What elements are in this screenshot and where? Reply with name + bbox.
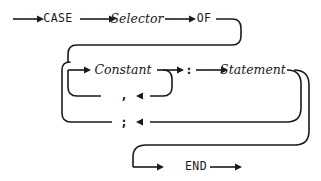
rail-of-to-right-turn <box>68 19 241 62</box>
rail-left-bus-join <box>62 62 70 70</box>
arrowhead-statement-arrow <box>221 66 228 73</box>
rail-comma-loop-down <box>150 70 172 96</box>
arrowhead-selector-arrow <box>189 15 196 22</box>
arrowhead-case-arrow <box>109 15 116 22</box>
arrowhead-exit-arrow <box>235 163 242 170</box>
rail-left-bus-down <box>68 70 101 96</box>
arrowhead-entry-arrow <box>37 15 44 22</box>
arrowhead-comma-return-arrow <box>136 92 143 99</box>
railroad-svg <box>0 0 321 181</box>
arrowheads <box>37 15 242 170</box>
arrowhead-semicolon-return-arrow <box>136 118 143 125</box>
rail-paths <box>13 19 309 167</box>
arrowhead-end-arrow <box>157 163 164 170</box>
arrowhead-constant-arrow <box>84 66 91 73</box>
arrowhead-colon-arrow <box>177 66 184 73</box>
rail-statement-to-end-rail <box>133 70 309 167</box>
railroad-diagram: CASESelectorOFConstant:Statement,;END <box>0 0 321 181</box>
